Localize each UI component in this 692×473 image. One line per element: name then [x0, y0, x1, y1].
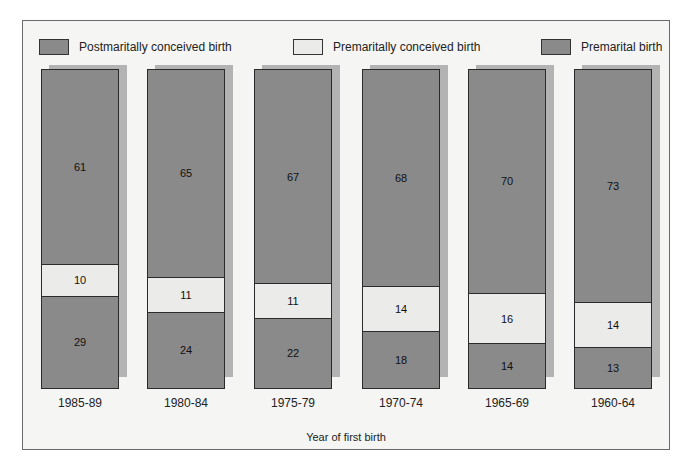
segment-value-label: 68: [395, 172, 407, 184]
bar-segment: 22: [255, 318, 331, 388]
x-tick-label: 1970-74: [356, 396, 446, 410]
segment-value-label: 29: [74, 336, 86, 348]
legend-swatch-premarital-birth: [541, 39, 571, 55]
bar-segment: 68: [363, 70, 439, 286]
bar-segment: 13: [575, 347, 651, 388]
bar-segment: 73: [575, 70, 651, 302]
x-tick-label: 1985-89: [35, 396, 125, 410]
bar-segment: 14: [363, 286, 439, 331]
x-tick-label: 1960-64: [568, 396, 658, 410]
bar-segment: 10: [42, 264, 118, 296]
stacked-bar-1970-74: 681418: [362, 69, 440, 389]
stacked-bar-1965-69: 701614: [468, 69, 546, 389]
x-tick-label: 1975-79: [248, 396, 338, 410]
segment-value-label: 61: [74, 161, 86, 173]
bar-segment: 24: [148, 312, 224, 388]
segment-value-label: 65: [180, 167, 192, 179]
segment-value-label: 70: [501, 175, 513, 187]
segment-value-label: 16: [501, 313, 513, 325]
segment-value-label: 10: [74, 274, 86, 286]
stacked-bar-1975-79: 671122: [254, 69, 332, 389]
bar-segment: 70: [469, 70, 545, 293]
chart-frame: Postmaritally conceived birth Premarital…: [22, 20, 670, 450]
segment-value-label: 11: [180, 289, 191, 301]
segment-value-label: 18: [395, 354, 407, 366]
stacked-bar-1980-84: 651124: [147, 69, 225, 389]
segment-value-label: 14: [395, 303, 407, 315]
legend-swatch-postmarital: [39, 39, 69, 55]
segment-value-label: 22: [287, 347, 299, 359]
bar-segment: 29: [42, 296, 118, 388]
legend-item-postmarital: Postmaritally conceived birth: [39, 38, 232, 56]
legend-label-postmarital: Postmaritally conceived birth: [79, 40, 232, 54]
stacked-bar-1960-64: 731413: [574, 69, 652, 389]
bar-segment: 65: [148, 70, 224, 277]
stacked-bar-1985-89: 611029: [41, 69, 119, 389]
segment-value-label: 11: [287, 295, 298, 307]
x-axis-label: Year of first birth: [23, 431, 669, 443]
bar-segment: 18: [363, 331, 439, 388]
legend-item-premarital-conceived: Premaritally conceived birth: [293, 38, 480, 56]
bar-segment: 14: [469, 343, 545, 388]
segment-value-label: 13: [607, 362, 619, 374]
x-tick-label: 1980-84: [141, 396, 231, 410]
bar-segment: 61: [42, 70, 118, 264]
legend-label-premarital-conceived: Premaritally conceived birth: [333, 40, 480, 54]
legend-label-premarital-birth: Premarital birth: [581, 40, 662, 54]
segment-value-label: 14: [607, 319, 619, 331]
segment-value-label: 73: [607, 180, 619, 192]
legend-item-premarital-birth: Premarital birth: [541, 38, 662, 56]
bar-segment: 11: [148, 277, 224, 312]
bar-segment: 14: [575, 302, 651, 347]
segment-value-label: 67: [287, 171, 299, 183]
legend-swatch-premarital-conceived: [293, 39, 323, 55]
x-tick-label: 1965-69: [462, 396, 552, 410]
bar-segment: 67: [255, 70, 331, 283]
bar-segment: 16: [469, 293, 545, 344]
segment-value-label: 24: [180, 344, 192, 356]
segment-value-label: 14: [501, 360, 513, 372]
bar-segment: 11: [255, 283, 331, 318]
